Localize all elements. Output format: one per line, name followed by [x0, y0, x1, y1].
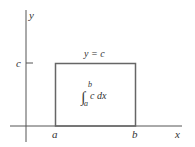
a-tick-label: a: [52, 128, 58, 140]
integrand: c dx: [90, 90, 107, 101]
curve-label: y = c: [83, 48, 105, 59]
x-axis-label: x: [174, 128, 180, 140]
c-tick-label: c: [16, 57, 21, 69]
b-tick-label: b: [132, 128, 138, 140]
integral-diagram: y x c a b y = c ∫ b a c dx: [0, 0, 195, 147]
integral-upper-limit: b: [88, 80, 92, 89]
y-axis-label: y: [28, 9, 34, 21]
integral-lower-limit: a: [84, 99, 88, 108]
